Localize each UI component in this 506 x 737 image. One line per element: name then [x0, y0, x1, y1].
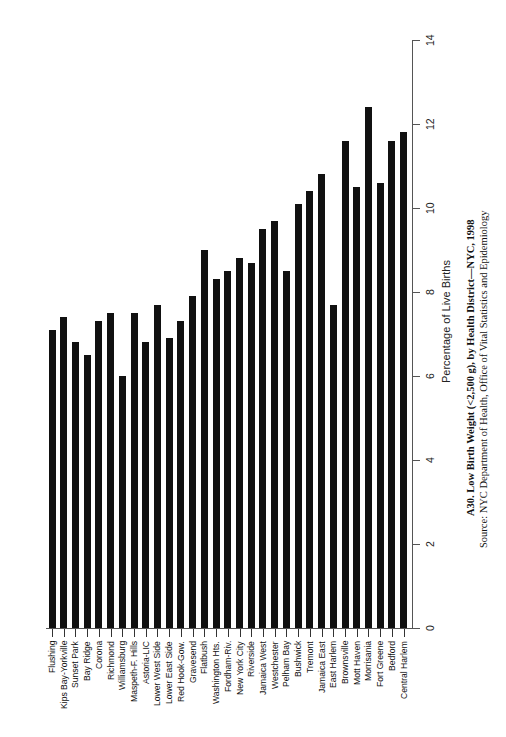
category-label: Flatbush	[199, 641, 209, 674]
category-label: Astoria-LIC	[141, 641, 151, 684]
bar: 7.5	[131, 313, 138, 628]
value-tick-label: 2	[424, 541, 436, 547]
category-tick	[204, 629, 205, 637]
category-label: Richmond	[106, 641, 116, 680]
category-tick	[380, 629, 381, 637]
bar: 8.7	[248, 263, 255, 628]
category-tick	[322, 629, 323, 637]
bar: 10.4	[306, 191, 313, 628]
category-tick	[345, 629, 346, 637]
bar: 6	[119, 376, 126, 628]
category-label: New York City	[235, 641, 245, 695]
bar: 9.5	[259, 229, 266, 628]
category-tick	[122, 629, 123, 637]
bar: 6.9	[166, 338, 173, 628]
value-tick	[412, 124, 420, 125]
bar: 8.8	[236, 258, 243, 628]
category-tick	[169, 629, 170, 637]
category-label: Sunset Park	[70, 641, 80, 688]
category-tick	[310, 629, 311, 637]
category-label: Jamaica West	[258, 641, 268, 695]
value-tick	[412, 544, 420, 545]
category-axis-line	[46, 628, 413, 629]
value-tick	[412, 292, 420, 293]
chart-title: A30. Low Birth Weight (<2,500 g), by Hea…	[465, 219, 476, 516]
category-label: Bay Ridge	[82, 641, 92, 681]
bar: 10.1	[295, 204, 302, 628]
category-label: Washington Hts.	[211, 641, 221, 704]
bar: 7.3	[177, 321, 184, 628]
category-label: Brownsville	[340, 641, 350, 684]
value-tick-label: 14	[424, 34, 436, 46]
category-label: Lower East Side	[164, 641, 174, 704]
category-label: Bushwick	[293, 641, 303, 677]
category-label: Morrisania	[363, 641, 373, 681]
value-tick	[412, 40, 420, 41]
bar: 9	[201, 250, 208, 628]
value-tick	[412, 628, 420, 629]
value-tick	[412, 460, 420, 461]
category-tick	[275, 629, 276, 637]
bar: 7.9	[189, 296, 196, 628]
value-tick	[412, 208, 420, 209]
value-axis-label: Percentage of Live Births	[440, 260, 452, 383]
bar: 10.8	[318, 174, 325, 628]
category-tick	[216, 629, 217, 637]
value-tick-label: 10	[424, 202, 436, 214]
bar-chart: 7.17.46.86.57.37.567.56.87.76.97.37.998.…	[0, 0, 506, 737]
category-tick	[64, 629, 65, 637]
category-label: Pelham Bay	[281, 641, 291, 687]
category-tick	[368, 629, 369, 637]
category-label: Central Harlem	[399, 641, 409, 699]
category-label: Bedford	[387, 641, 397, 671]
category-label: Maspeth-F. Hills	[129, 641, 139, 702]
bar: 7.5	[107, 313, 114, 628]
bar: 7.4	[60, 317, 67, 628]
category-tick	[52, 629, 53, 637]
category-label: Flushing	[47, 641, 57, 673]
category-label: Kips Bay-Yorkville	[59, 641, 69, 709]
category-tick	[87, 629, 88, 637]
category-tick	[263, 629, 264, 637]
bar: 12.4	[365, 107, 372, 628]
category-tick	[357, 629, 358, 637]
category-label: Lower West Side	[152, 641, 162, 706]
value-tick-label: 8	[424, 289, 436, 295]
bar: 6.5	[84, 355, 91, 628]
category-label: Williamsburg	[117, 641, 127, 690]
bar: 8.5	[224, 271, 231, 628]
bar: 7.7	[330, 305, 337, 628]
category-tick	[157, 629, 158, 637]
category-label: Riverside	[246, 641, 256, 677]
bar: 8.5	[283, 271, 290, 628]
category-tick	[99, 629, 100, 637]
category-tick	[251, 629, 252, 637]
category-tick	[333, 629, 334, 637]
value-tick-label: 6	[424, 373, 436, 379]
category-label: Tremont	[305, 641, 315, 673]
value-tick-label: 0	[424, 625, 436, 631]
category-label: Mott Haven	[352, 641, 362, 685]
bar: 6.8	[72, 342, 79, 628]
bar: 8.3	[213, 279, 220, 628]
category-label: Gravesend	[188, 641, 198, 683]
category-tick	[392, 629, 393, 637]
value-tick	[412, 376, 420, 377]
category-label: Corona	[94, 641, 104, 669]
bar: 9.7	[271, 221, 278, 628]
category-tick	[298, 629, 299, 637]
bar: 11.8	[400, 132, 407, 628]
category-tick	[240, 629, 241, 637]
chart-source: Source: NYC Department of Health, Office…	[478, 210, 489, 548]
bar: 10.5	[353, 187, 360, 628]
category-label: Westchester	[270, 641, 280, 689]
bar: 11.6	[342, 141, 349, 628]
bar: 6.8	[142, 342, 149, 628]
value-tick-label: 12	[424, 118, 436, 130]
category-tick	[404, 629, 405, 637]
category-label: Fordham-Riv.	[223, 641, 233, 692]
category-label: Red Hook-Gow.	[176, 641, 186, 702]
category-tick	[181, 629, 182, 637]
category-tick	[286, 629, 287, 637]
category-tick	[75, 629, 76, 637]
